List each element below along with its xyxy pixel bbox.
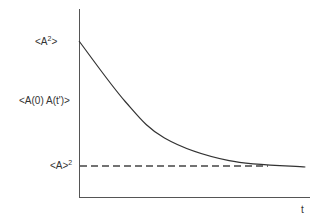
y-marker-mean-squared: <A>2 [50, 159, 72, 171]
y-marker-a-squared-mean: <A2> [35, 35, 57, 47]
x-axis-label: t [301, 204, 304, 215]
label-base: <A> [50, 160, 68, 171]
label-tail: > [51, 36, 57, 47]
decay-curve [79, 41, 305, 167]
label-base: <A [35, 36, 48, 47]
label-sup: 2 [68, 159, 72, 166]
y-axis-label: <A(0) A(t')> [19, 95, 70, 106]
diagram-canvas [0, 0, 323, 223]
